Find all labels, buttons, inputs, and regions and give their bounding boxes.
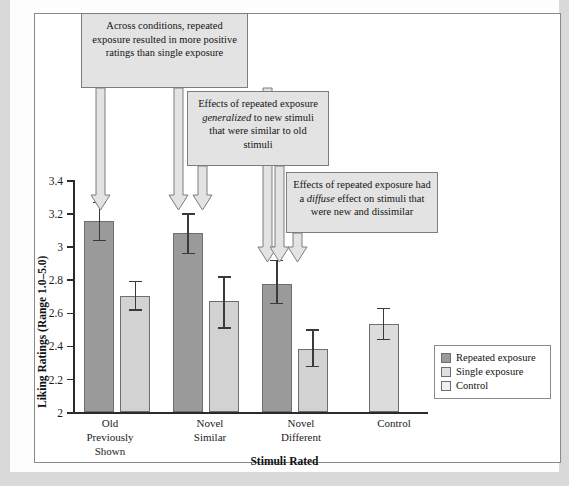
paper-sheet: Liking Ratings (Range 1.0–5.0) 2 2.2 2.4… (10, 0, 559, 472)
callout-box-2: Effects of repeated exposure generalized… (187, 91, 329, 166)
callout-box-3: Effects of repeated exposure had a diffu… (286, 172, 438, 233)
y-tick-2.2: 2.2 (67, 379, 73, 381)
legend-item-repeated-exposure: Repeated exposure (441, 351, 544, 365)
bar-single-0 (120, 296, 150, 412)
y-axis-title: Liking Ratings (Range 1.0–5.0) (36, 0, 48, 188)
y-tick-2.8: 2.8 (67, 279, 73, 281)
error-cap-upper-repeated-2 (270, 260, 283, 261)
error-cap-lower-single-1 (218, 327, 231, 328)
x-group-label-1: Novel Similar (162, 416, 258, 444)
callout-emphasis: generalized (202, 112, 251, 123)
error-bar-control-3 (383, 308, 384, 339)
y-axis-title-text: Liking Ratings (Range 1.0–5.0) (36, 256, 48, 408)
callout-emphasis: diffuse (307, 193, 335, 204)
y-axis-line (73, 180, 75, 412)
y-tick-label-2.8: 2.8 (49, 274, 63, 286)
error-cap-lower-single-2 (306, 366, 319, 367)
x-group-line: Novel (253, 416, 349, 430)
error-cap-upper-single-1 (218, 276, 231, 277)
error-cap-lower-control-3 (377, 339, 390, 340)
error-bar-single-2 (312, 329, 313, 365)
bar-repeated-1 (173, 233, 203, 412)
error-bar-repeated-2 (276, 260, 277, 303)
x-group-line: Novel (162, 416, 258, 430)
error-cap-lower-single-0 (129, 309, 142, 310)
bar-repeated-0 (84, 221, 114, 412)
page-background: Liking Ratings (Range 1.0–5.0) 2 2.2 2.4… (0, 0, 569, 486)
y-tick-2.6: 2.6 (67, 313, 73, 315)
x-group-line: Different (253, 430, 349, 444)
y-tick-2: 2 (67, 412, 73, 414)
y-tick-3.2: 3.2 (67, 213, 73, 215)
y-tick-3.4: 3.4 (67, 180, 73, 182)
y-tick-label-2.6: 2.6 (49, 307, 63, 319)
x-group-label-2: Novel Different (253, 416, 349, 444)
error-cap-upper-control-3 (377, 308, 390, 309)
x-group-line: Previously (62, 430, 158, 444)
error-bar-single-1 (223, 276, 224, 327)
legend-item-control: Control (441, 379, 544, 393)
error-bar-repeated-0 (99, 202, 100, 240)
y-tick-3: 3 (67, 246, 73, 248)
error-bar-repeated-1 (187, 213, 188, 253)
legend-label: Repeated exposure (456, 351, 536, 365)
legend-label: Single exposure (456, 365, 523, 379)
legend-swatch-icon (441, 367, 451, 377)
x-axis-title: Stimuli Rated (10, 455, 559, 467)
x-group-line: Control (346, 416, 442, 430)
x-group-line: Similar (162, 430, 258, 444)
x-group-label-3: Control (346, 416, 442, 430)
callout-text-3: Effects of repeated exposure had a diffu… (293, 179, 430, 217)
chart-legend: Repeated exposure Single exposure Contro… (434, 345, 551, 399)
y-tick-label-3.2: 3.2 (49, 208, 63, 220)
legend-item-single-exposure: Single exposure (441, 365, 544, 379)
error-cap-upper-repeated-1 (182, 213, 195, 214)
error-cap-upper-single-0 (129, 281, 142, 282)
x-group-line: Old (62, 416, 158, 430)
y-tick-label-2.2: 2.2 (49, 374, 63, 386)
legend-swatch-icon (441, 353, 451, 363)
legend-label: Control (456, 379, 488, 393)
error-cap-lower-repeated-0 (93, 240, 106, 241)
legend-swatch-icon (441, 381, 451, 391)
callout-text-1: Across conditions, repeated exposure res… (92, 20, 237, 58)
y-tick-2.4: 2.4 (67, 346, 73, 348)
y-tick-label-2.4: 2.4 (49, 340, 63, 352)
y-tick-label-3.4: 3.4 (49, 175, 63, 187)
callout-text-2: Effects of repeated exposure generalized… (198, 98, 318, 150)
x-axis-line (73, 412, 428, 414)
x-group-label-0: Old Previously Shown (62, 416, 158, 458)
error-cap-upper-single-2 (306, 329, 319, 330)
callout-box-1: Across conditions, repeated exposure res… (81, 13, 248, 88)
error-cap-lower-repeated-2 (270, 303, 283, 304)
error-cap-upper-repeated-0 (93, 202, 106, 203)
error-bar-single-0 (135, 281, 136, 309)
error-cap-lower-repeated-1 (182, 253, 195, 254)
y-tick-label-3: 3 (57, 241, 63, 253)
